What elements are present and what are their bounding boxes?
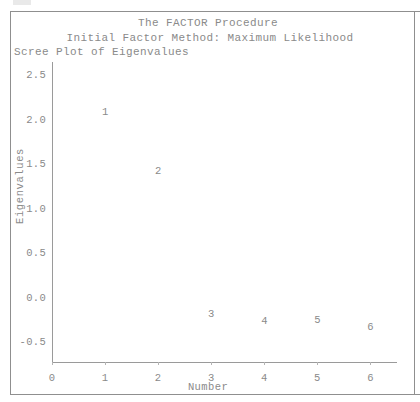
y-axis-tick-label: 0.0: [12, 292, 46, 304]
y-axis-tick-label: -0.5: [12, 336, 46, 348]
x-axis-tick: 4: [254, 368, 274, 386]
x-axis-tick: 1: [95, 368, 115, 386]
scree-data-point: 5: [310, 315, 324, 326]
scree-data-point: 2: [151, 166, 165, 177]
y-axis-tick-label: 1.0: [12, 203, 46, 215]
x-axis-tick: 2: [148, 368, 168, 386]
scree-data-point: 3: [204, 309, 218, 320]
y-axis-tick-label: 2.5: [12, 69, 46, 81]
x-axis-tick-mark: [211, 362, 212, 365]
x-axis-tick-label: 0: [49, 372, 56, 384]
y-axis-tick: 2.5: [6, 69, 46, 81]
y-axis-tick: 1.5: [6, 158, 46, 170]
y-axis-tick: 1.0: [6, 203, 46, 215]
x-axis-tick-mark: [264, 362, 265, 365]
x-axis-tick-mark: [105, 362, 106, 365]
y-axis-tick-label: 2.0: [12, 114, 46, 126]
scree-data-point: 4: [257, 316, 271, 327]
x-axis-tick-label: 3: [208, 372, 215, 384]
x-axis-tick-mark: [52, 362, 53, 365]
x-axis-tick-label: 5: [314, 372, 321, 384]
x-axis-tick: 5: [307, 368, 327, 386]
x-axis-tick-label: 4: [261, 372, 268, 384]
x-axis-tick-label: 2: [155, 372, 162, 384]
scree-data-point: 6: [363, 322, 377, 333]
x-axis-tick: 6: [360, 368, 380, 386]
y-axis-tick: -0.5: [6, 336, 46, 348]
y-axis-tick-label: 1.5: [12, 158, 46, 170]
y-axis-tick: 2.0: [6, 114, 46, 126]
x-axis-tick-label: 1: [102, 372, 109, 384]
scree-data-point: 1: [98, 107, 112, 118]
x-axis-tick-label: 6: [367, 372, 374, 384]
y-axis-tick-label: 0.5: [12, 247, 46, 259]
x-axis-tick-mark: [317, 362, 318, 365]
y-axis-tick: 0.0: [6, 292, 46, 304]
y-axis-tick: 0.5: [6, 247, 46, 259]
y-axis-title: Eigenvalues: [14, 138, 26, 234]
x-axis-tick: 3: [201, 368, 221, 386]
x-axis-tick-mark: [158, 362, 159, 365]
x-axis-line: [52, 362, 397, 363]
y-axis-line: [52, 62, 53, 362]
x-axis-tick-mark: [370, 362, 371, 365]
x-axis-tick: 0: [42, 368, 62, 386]
